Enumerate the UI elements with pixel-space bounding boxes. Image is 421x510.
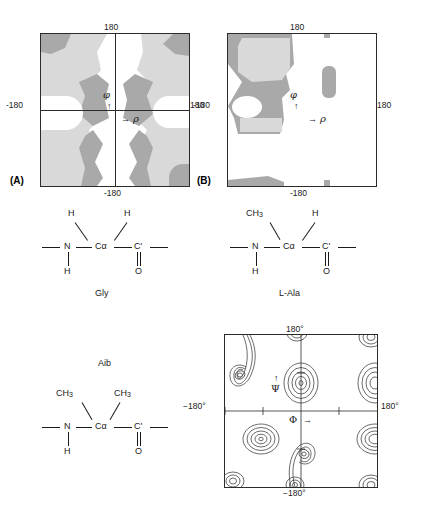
bond-ca-ch3-right [110, 402, 121, 420]
bond-ca-c [302, 247, 320, 248]
allowed-region-alpha-l [322, 66, 336, 98]
panel-b-axis-left: -180 [193, 100, 210, 110]
bond-ca-c [114, 427, 132, 428]
contour-x-axis-symbol: Φ [289, 414, 297, 425]
panel-b-x-arrow-icon: → [308, 114, 317, 124]
bond-c-next [150, 427, 168, 428]
structure-aib: CH3 CH3 N Cα C' H O [40, 388, 190, 460]
contour-axis-right: 180° [381, 401, 399, 411]
forbidden-pocket-left [41, 96, 83, 130]
bond-c-o-b [140, 252, 141, 266]
panel-a-axis-bottom: -180 [104, 188, 121, 198]
contour-plot-aib: ↑ Ψ Φ → [224, 334, 378, 488]
gly-alpha-carbon: Cα [95, 241, 107, 251]
ramachandran-plot-ala: φ ↑ → ρ [227, 33, 377, 187]
psi-axis-line [41, 110, 189, 111]
bond-ca-c [114, 247, 132, 248]
gly-amide-h: H [64, 266, 71, 276]
contour-axis-left: −180° [183, 401, 206, 411]
bond-n-ca [264, 247, 280, 248]
aib-substituent-right: CH3 [114, 388, 131, 398]
ala-amide-h: H [252, 266, 259, 276]
aib-amide-h: H [64, 446, 71, 456]
panel-b-axis-right: 180 [377, 100, 391, 110]
bond-ca-h-right [114, 222, 127, 241]
structure-ala: CH3 H N Cα C' H O [228, 208, 378, 280]
bond-n-h [68, 432, 69, 446]
ramachandran-plot-gly: φ ↑ → ρ [40, 33, 190, 187]
bond-c-o-a [325, 252, 326, 266]
bond-ca-ch3 [270, 222, 281, 240]
bond-ca-h [302, 222, 315, 241]
ala-nitrogen: N [252, 241, 259, 251]
aib-substituent-left: CH3 [56, 388, 73, 398]
ramachandran-figure: (A) 180 -180 -180 180 φ ↑ → ρ (B) 180 -1… [0, 0, 421, 510]
ala-alpha-carbon: Cα [283, 241, 295, 251]
allowed-region-alpha-l-bottom [324, 180, 330, 186]
aib-alpha-carbon: Cα [95, 421, 107, 431]
panel-a-y-axis-symbol: φ [103, 89, 110, 100]
structure-gly: H H N Cα C' H O [40, 208, 190, 280]
forbidden-pocket-right [153, 96, 189, 128]
allowed-region-beta-core [238, 38, 290, 82]
panel-a-x-arrow-icon: → [121, 114, 130, 124]
bond-c-o-b [140, 432, 141, 446]
caption-gly: Gly [95, 288, 109, 298]
ala-carbonyl-carbon: C' [322, 241, 330, 251]
contour-axis-bottom: −180° [283, 488, 306, 498]
bond-c-next [338, 247, 356, 248]
allowed-region-bottom-strip [228, 176, 284, 186]
aib-oxygen: O [135, 446, 142, 456]
bond-c-o-a [137, 432, 138, 446]
bond-prev-n [42, 427, 60, 428]
panel-a-axis-top: 180 [104, 22, 118, 32]
gly-carbonyl-carbon: C' [134, 241, 142, 251]
panel-b-axis-top: 180 [290, 22, 304, 32]
bond-ca-ch3-left [82, 402, 93, 420]
caption-aib: Aib [98, 358, 111, 368]
bond-ca-h-left [75, 222, 88, 241]
ala-substituent-left: CH3 [246, 208, 263, 218]
aib-carbonyl-carbon: C' [134, 421, 142, 431]
gly-substituent-left: H [68, 208, 75, 218]
ala-oxygen: O [323, 266, 330, 276]
gly-nitrogen: N [64, 241, 71, 251]
bond-n-ca [76, 247, 92, 248]
bond-n-h [256, 252, 257, 266]
bond-prev-n [42, 247, 60, 248]
bond-n-h [68, 252, 69, 266]
bond-prev-n [230, 247, 248, 248]
panel-b-y-arrow-icon: ↑ [294, 101, 299, 111]
panel-b-axis-bottom: -180 [290, 188, 307, 198]
panel-a-y-arrow-icon: ↑ [107, 101, 112, 111]
bond-c-o-b [328, 252, 329, 266]
forbidden-pocket-ala [232, 96, 262, 118]
contour-svg [225, 335, 377, 487]
panel-b-tag: (B) [197, 175, 211, 186]
aib-nitrogen: N [64, 421, 71, 431]
panel-a-tag: (A) [10, 175, 24, 186]
partially-allowed-region-corner-br [169, 164, 189, 186]
bond-c-next [150, 247, 168, 248]
panel-a-x-axis-symbol: ρ [133, 113, 139, 124]
gly-oxygen: O [135, 266, 142, 276]
bond-c-o-a [137, 252, 138, 266]
panel-b-y-axis-symbol: φ [290, 89, 297, 100]
panel-b-x-axis-symbol: ρ [320, 113, 326, 124]
contour-axis-top: 180° [286, 324, 304, 334]
contour-y-axis-symbol: Ψ [271, 383, 280, 394]
bond-n-ca [76, 427, 92, 428]
panel-a-axis-left: -180 [6, 100, 23, 110]
gly-substituent-right: H [124, 208, 131, 218]
allowed-region-alpha-band [240, 118, 282, 132]
caption-ala: L-Ala [279, 288, 300, 298]
ala-substituent-right: H [312, 208, 319, 218]
contour-x-arrow-icon: → [303, 415, 312, 425]
allowed-region-alpha-l-top [324, 34, 330, 38]
contour-y-arrow-icon: ↑ [274, 373, 279, 383]
